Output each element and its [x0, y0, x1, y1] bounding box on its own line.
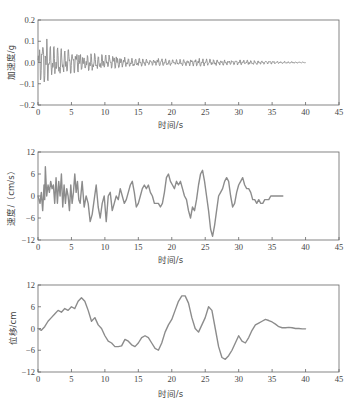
y-axis-label: 速度/（cm/s）	[6, 166, 16, 225]
y-tick-label: −12	[22, 367, 35, 377]
data-series-line	[38, 167, 283, 237]
data-series-line	[38, 39, 305, 82]
y-tick-label: −12	[22, 235, 35, 245]
x-tick-label: 5	[69, 374, 73, 384]
x-tick-label: 5	[69, 242, 73, 252]
x-axis-label: 时间/s	[158, 255, 184, 265]
displacement-panel: 051015202530354045−12−60612时间/s位移/cm	[8, 280, 343, 399]
x-tick-label: 20	[168, 107, 177, 117]
y-tick-label: 0	[31, 191, 35, 201]
x-tick-label: 5	[69, 107, 73, 117]
x-tick-label: 25	[201, 242, 210, 252]
x-tick-label: 0	[36, 242, 40, 252]
y-tick-label: 0.1	[24, 36, 35, 46]
x-axis-label: 时间/s	[158, 389, 184, 399]
x-tick-label: 0	[36, 374, 40, 384]
x-tick-label: 30	[234, 107, 243, 117]
x-tick-label: 45	[335, 107, 344, 117]
y-axis-label: 位移/cm	[8, 312, 18, 346]
x-tick-label: 10	[101, 107, 110, 117]
y-tick-label: 0.0	[24, 58, 35, 68]
y-tick-label: −6	[26, 345, 35, 355]
x-tick-label: 45	[335, 374, 344, 384]
x-tick-label: 40	[301, 107, 310, 117]
x-tick-label: 40	[301, 242, 310, 252]
x-tick-label: 40	[301, 374, 310, 384]
x-tick-label: 25	[201, 374, 210, 384]
y-tick-label: −6	[26, 213, 35, 223]
acceleration-panel: 051015202530354045−0.2−0.10.00.10.2时间/s加…	[6, 15, 343, 130]
y-tick-label: 6	[31, 169, 35, 179]
x-tick-label: 0	[36, 107, 40, 117]
y-tick-label: −0.2	[20, 100, 35, 110]
x-tick-label: 15	[134, 374, 143, 384]
x-tick-label: 30	[234, 242, 243, 252]
x-tick-label: 10	[101, 374, 110, 384]
y-tick-label: −0.1	[20, 79, 35, 89]
y-tick-label: 0.2	[24, 15, 35, 25]
data-series-line	[38, 296, 306, 359]
x-tick-label: 35	[268, 374, 277, 384]
y-tick-label: 6	[31, 302, 35, 312]
x-tick-label: 45	[335, 242, 344, 252]
x-axis-label: 时间/s	[158, 120, 184, 130]
x-tick-label: 25	[201, 107, 210, 117]
x-tick-label: 35	[268, 107, 277, 117]
velocity-panel: 051015202530354045−12−60612时间/s速度/（cm/s）	[6, 147, 343, 265]
chart-canvas: 051015202530354045−0.2−0.10.00.10.2时间/s加…	[0, 0, 349, 411]
x-tick-label: 20	[168, 242, 177, 252]
y-tick-label: 12	[27, 280, 36, 290]
y-tick-label: 0	[31, 324, 35, 334]
x-tick-label: 15	[134, 107, 143, 117]
x-tick-label: 15	[134, 242, 143, 252]
y-tick-label: 12	[27, 147, 36, 157]
x-tick-label: 35	[268, 242, 277, 252]
x-tick-label: 10	[101, 242, 110, 252]
x-tick-label: 30	[234, 374, 243, 384]
y-axis-label: 加速度/g	[6, 45, 16, 80]
x-tick-label: 20	[168, 374, 177, 384]
